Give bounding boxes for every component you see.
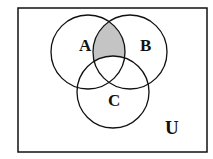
set-a-label: A <box>79 36 92 55</box>
set-b-label: B <box>140 36 151 55</box>
venn-diagram: A B C U <box>0 0 213 159</box>
universe-label: U <box>165 117 179 138</box>
set-c-label: C <box>108 91 120 110</box>
